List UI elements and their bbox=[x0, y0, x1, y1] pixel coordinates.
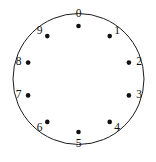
node-label-0: 0 bbox=[76, 7, 82, 19]
node-dot-1[interactable] bbox=[107, 34, 112, 39]
node-label-7: 7 bbox=[16, 88, 22, 100]
node-label-6: 6 bbox=[37, 121, 43, 133]
outer-boundary-circle bbox=[13, 14, 144, 145]
node-label-4: 4 bbox=[114, 121, 120, 133]
node-label-9: 9 bbox=[37, 24, 43, 36]
node-dot-7[interactable] bbox=[26, 93, 31, 98]
node-dot-9[interactable] bbox=[45, 34, 50, 39]
node-dot-5[interactable] bbox=[76, 130, 81, 135]
node-label-1: 1 bbox=[114, 24, 120, 36]
node-5[interactable]: 5 bbox=[76, 130, 82, 149]
node-label-8: 8 bbox=[16, 55, 22, 67]
node-dot-3[interactable] bbox=[127, 93, 132, 98]
node-dot-2[interactable] bbox=[127, 60, 132, 65]
diagram-canvas: 0123456789 bbox=[0, 0, 156, 162]
node-label-5: 5 bbox=[76, 137, 82, 149]
node-dot-6[interactable] bbox=[45, 120, 50, 125]
node-label-2: 2 bbox=[136, 55, 142, 67]
node-dot-8[interactable] bbox=[26, 60, 31, 65]
node-label-3: 3 bbox=[136, 88, 142, 100]
node-dot-0[interactable] bbox=[76, 24, 81, 29]
node-dot-4[interactable] bbox=[107, 120, 112, 125]
circle-diagram: 0123456789 bbox=[0, 0, 156, 162]
